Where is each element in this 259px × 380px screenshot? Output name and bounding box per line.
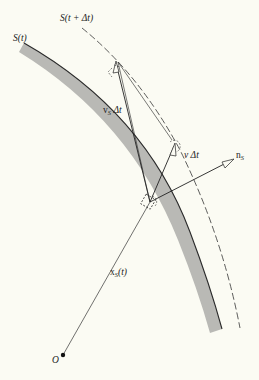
diagram-graphics [0, 0, 259, 380]
normal-arrowhead [222, 159, 234, 168]
ns-sub: S [241, 154, 244, 161]
surface-edge-line [24, 43, 222, 329]
label-normal-ns: nS [236, 151, 244, 162]
xs-tail: (t) [118, 267, 127, 277]
origin-dot [61, 353, 65, 357]
label-v-dt: v Δt [184, 151, 199, 161]
diagram-canvas: S(t + Δt) S(t) vS Δt v Δt nS xS(t) O [0, 0, 259, 380]
vs-tail: Δt [111, 105, 122, 115]
v-dt-arrowhead [170, 143, 176, 156]
label-position-xs: xS(t) [110, 268, 127, 279]
label-surface-t: S(t) [13, 34, 27, 44]
label-vs-dt: vS Δt [103, 106, 122, 117]
position-vector-line [63, 202, 150, 355]
label-origin: O [52, 356, 59, 366]
surface-band [19, 43, 222, 333]
label-surface-t-plus-dt: S(t + Δt) [60, 14, 93, 24]
